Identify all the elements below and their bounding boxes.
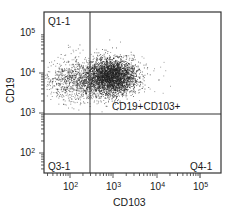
y-tick-1e2: 102 <box>20 148 35 158</box>
y-tick-1e4: 104 <box>20 68 35 78</box>
y-tick-1e5: 105 <box>20 28 35 38</box>
x-tick-1e5: 105 <box>193 182 208 192</box>
quadrant-label-q2: CD19+CD103+ <box>112 102 180 112</box>
x-tick-1e2: 102 <box>63 182 78 192</box>
y-tick-1e3: 103 <box>20 108 35 118</box>
y-axis-label: CD19 <box>5 77 16 103</box>
x-axis-label: CD103 <box>113 197 146 207</box>
x-axis-ticks <box>48 173 200 178</box>
quadrant-label-q4: Q4-1 <box>190 162 212 172</box>
x-tick-1e4: 104 <box>150 182 165 192</box>
quadrant-label-q3: Q3-1 <box>48 162 70 172</box>
plot-frame <box>44 12 221 173</box>
y-axis-ticks <box>39 35 44 169</box>
quadrant-label-q1: Q1-1 <box>48 17 70 27</box>
x-tick-1e3: 103 <box>106 182 121 192</box>
